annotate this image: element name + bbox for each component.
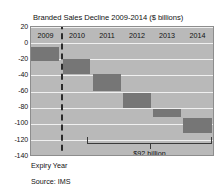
gridline [31, 92, 213, 93]
gridline [31, 108, 213, 109]
bar-2010 [63, 59, 90, 74]
total-bracket-label: $92 billion [88, 149, 211, 156]
bar-2014 [183, 118, 212, 133]
y-tick-label: -120 [0, 136, 28, 143]
x-axis-label: Expiry Year [31, 161, 67, 170]
x-tick-label-2013: 2013 [152, 31, 182, 40]
gridline [31, 43, 213, 44]
y-axis: 20 0 -20 -40 -60 -80 -100 -120 -140 [0, 26, 28, 156]
y-tick-label: -40 [0, 71, 28, 78]
gridline [31, 75, 213, 76]
x-tick-label-2012: 2012 [122, 31, 152, 40]
y-tick-label: 20 [0, 23, 28, 30]
chart-figure: Branded Sales Decline 2009-2014 ($ billi… [0, 0, 217, 188]
gridline [31, 27, 213, 28]
y-tick-label: -140 [0, 152, 28, 159]
x-tick-label-2014: 2014 [182, 31, 213, 40]
x-tick-label-2009: 2009 [31, 31, 60, 40]
x-tick-label-2010: 2010 [62, 31, 92, 40]
total-bracket: $92 billion [87, 137, 212, 144]
source-note: Source: IMS [31, 177, 71, 186]
bar-2013 [153, 109, 181, 117]
y-tick-label: -80 [0, 103, 28, 110]
y-tick-label: -20 [0, 55, 28, 62]
bar-2011 [93, 74, 121, 92]
plot-area: 2009 2010 2011 2012 2013 2014 $92 billio… [30, 26, 214, 156]
bar-2009 [31, 47, 59, 61]
expiry-divider-line [61, 26, 63, 156]
x-tick-label-2011: 2011 [92, 31, 122, 40]
y-tick-label: 0 [0, 39, 28, 46]
chart-title: Branded Sales Decline 2009-2014 ($ billi… [33, 13, 183, 22]
y-tick-label: -60 [0, 87, 28, 94]
y-tick-label: -100 [0, 119, 28, 126]
bar-2012 [123, 93, 151, 108]
